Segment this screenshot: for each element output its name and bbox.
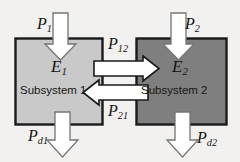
coupling-power-21-label: P21 — [108, 103, 128, 119]
coupling-power-21-label-subscript: 21 — [118, 110, 128, 121]
coupling-power-21-label-base: P — [108, 102, 118, 119]
coupling-power-12-label-base: P — [108, 35, 118, 52]
dissipated-power-2-label: Pd2 — [197, 130, 217, 146]
energy-2-label-subscript: 2 — [182, 65, 187, 77]
energy-1-label-base: E — [51, 57, 61, 76]
block-diagram-figure: P1 P2 P12 P21 E1 E2 Pd1 Pd2 Subsystem 1 … — [0, 0, 240, 162]
dissipated-power-1-label-subscript: d1 — [38, 135, 48, 146]
input-power-1-label: P1 — [37, 16, 52, 32]
dissipated-power-2-label-subscript: d2 — [207, 137, 217, 148]
energy-1-label-subscript: 1 — [61, 65, 66, 77]
input-power-2-label: P2 — [185, 16, 200, 32]
coupling-power-12-label-subscript: 12 — [118, 43, 128, 54]
energy-1-label: E1 — [51, 58, 67, 75]
dissipated-power-1-label-base: P — [28, 127, 38, 144]
input-power-1-label-base: P — [37, 15, 47, 32]
energy-2-label-base: E — [172, 57, 182, 76]
energy-2-label: E2 — [172, 58, 188, 75]
subsystem-2-caption: Subsystem 2 — [141, 85, 207, 97]
subsystem-1-caption: Subsystem 1 — [20, 85, 86, 97]
input-power-2-label-base: P — [185, 15, 195, 32]
coupling-power-12-label: P12 — [108, 36, 128, 52]
input-power-2-label-subscript: 2 — [195, 23, 200, 34]
dissipated-power-1-label: Pd1 — [28, 128, 48, 144]
dissipated-power-2-label-base: P — [197, 129, 207, 146]
input-power-1-label-subscript: 1 — [47, 23, 52, 34]
